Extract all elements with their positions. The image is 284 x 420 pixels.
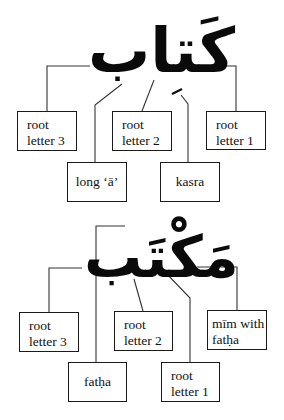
connector-root3-top	[47, 66, 90, 111]
label-line: root	[216, 117, 265, 133]
label-long-a: long ‘ā’	[67, 162, 127, 202]
label-root-letter-1-top: root letter 1	[206, 111, 266, 150]
label-line: letter 3	[29, 334, 78, 350]
connector-kasra	[181, 95, 188, 162]
label-line: letter 2	[122, 133, 171, 149]
label-fatha: fatḥa	[68, 362, 127, 402]
label-text: kasra	[176, 174, 204, 190]
label-line: letter 1	[171, 384, 219, 400]
label-line: mīm with	[212, 316, 266, 332]
label-line: root	[29, 318, 78, 334]
label-text: long ‘ā’	[76, 174, 118, 190]
label-text: fatḥa	[84, 374, 111, 390]
arabic-word-maktab: مَكْتَب	[84, 228, 239, 286]
label-line: root	[27, 117, 76, 133]
kasra-mark	[172, 89, 182, 94]
label-root-letter-2-top: root letter 2	[112, 111, 172, 151]
label-kasra: kasra	[160, 162, 220, 202]
arabic-word-kitab: كَتاب	[88, 20, 235, 82]
label-root-letter-2-bottom: root letter 2	[114, 311, 173, 351]
label-line: root	[124, 317, 172, 333]
label-mim-with-fatha: mīm with fatḥa	[207, 310, 267, 350]
label-line: root	[122, 117, 171, 133]
label-root-letter-3-top: root letter 3	[17, 111, 77, 151]
label-root-letter-3-bottom: root letter 3	[19, 312, 79, 352]
label-line: root	[171, 368, 219, 384]
label-line: letter 3	[27, 133, 76, 149]
label-line: letter 2	[124, 333, 172, 349]
connector-root3-bottom	[49, 268, 82, 312]
label-line: letter 1	[216, 133, 265, 149]
label-root-letter-1-bottom: root letter 1	[161, 362, 220, 402]
label-line: fatḥa	[212, 332, 266, 348]
